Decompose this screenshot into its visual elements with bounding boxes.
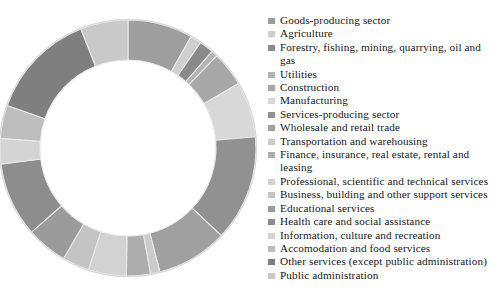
legend-item-label: Utilities <box>280 68 317 81</box>
legend-item[interactable]: Health care and social assistance <box>268 215 495 228</box>
legend-item-label: Wholesale and retail trade <box>280 121 400 134</box>
legend-item-label: Professional, scientific and technical s… <box>280 175 488 188</box>
legend-swatch-icon <box>268 179 275 185</box>
donut-chart-svg <box>0 0 262 299</box>
legend-swatch-icon <box>268 125 275 131</box>
legend-item-label: Information, culture and recreation <box>280 229 440 242</box>
legend-swatch-icon <box>268 246 275 252</box>
legend-swatch-icon <box>268 98 275 104</box>
legend-item[interactable]: Accomodation and food services <box>268 242 495 255</box>
legend-swatch-icon <box>268 273 275 279</box>
legend-swatch-icon <box>268 152 275 158</box>
legend-swatch-icon <box>268 18 275 24</box>
legend-swatch-icon <box>268 219 275 225</box>
legend-item-label: Agriculture <box>280 27 333 40</box>
legend-item[interactable]: Educational services <box>268 202 495 215</box>
chart-legend: Goods-producing sectorAgricultureForestr… <box>268 14 495 282</box>
legend-item[interactable]: Business, building and other support ser… <box>268 188 495 201</box>
legend-swatch-icon <box>268 233 275 239</box>
legend-swatch-icon <box>268 45 275 51</box>
legend-item[interactable]: Manufacturing <box>268 94 495 107</box>
legend-swatch-icon <box>268 192 275 198</box>
legend-swatch-icon <box>268 112 275 118</box>
legend-swatch-icon <box>268 72 275 78</box>
legend-item[interactable]: Goods-producing sector <box>268 14 495 27</box>
legend-item[interactable]: Utilities <box>268 68 495 81</box>
legend-swatch-icon <box>268 259 275 265</box>
legend-item-label: Public administration <box>280 269 378 282</box>
legend-item[interactable]: Finance, insurance, real estate, rental … <box>268 148 495 175</box>
legend-item[interactable]: Forestry, fishing, mining, quarrying, oi… <box>268 41 495 68</box>
legend-swatch-icon <box>268 31 275 37</box>
legend-item-label: Forestry, fishing, mining, quarrying, oi… <box>280 41 495 68</box>
legend-item-label: Finance, insurance, real estate, rental … <box>280 148 495 175</box>
legend-item[interactable]: Professional, scientific and technical s… <box>268 175 495 188</box>
legend-item[interactable]: Information, culture and recreation <box>268 229 495 242</box>
legend-swatch-icon <box>268 139 275 145</box>
legend-item-label: Manufacturing <box>280 94 348 107</box>
legend-item-label: Other services (except public administra… <box>280 255 487 268</box>
legend-item[interactable]: Wholesale and retail trade <box>268 121 495 134</box>
legend-item[interactable]: Public administration <box>268 269 495 282</box>
legend-item[interactable]: Transportation and warehousing <box>268 135 495 148</box>
donut-slice[interactable] <box>7 29 95 119</box>
legend-item[interactable]: Construction <box>268 81 495 94</box>
donut-slice[interactable] <box>0 138 41 164</box>
legend-item-label: Transportation and warehousing <box>280 135 428 148</box>
legend-item[interactable]: Agriculture <box>268 27 495 40</box>
legend-item-label: Accomodation and food services <box>280 242 430 255</box>
donut-slice-group <box>0 20 256 276</box>
legend-item[interactable]: Services-producing sector <box>268 108 495 121</box>
donut-chart <box>0 0 262 299</box>
legend-item-label: Construction <box>280 81 339 94</box>
legend-item-label: Services-producing sector <box>280 108 399 121</box>
legend-item-label: Educational services <box>280 202 375 215</box>
legend-item[interactable]: Other services (except public administra… <box>268 255 495 268</box>
legend-item-label: Business, building and other support ser… <box>280 188 488 201</box>
legend-swatch-icon <box>268 85 275 91</box>
legend-item-label: Goods-producing sector <box>280 14 390 27</box>
legend-swatch-icon <box>268 206 275 212</box>
legend-item-label: Health care and social assistance <box>280 215 430 228</box>
